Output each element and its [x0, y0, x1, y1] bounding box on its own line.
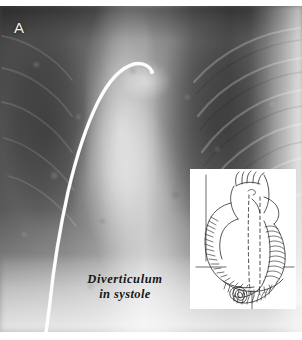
hatch-coil — [234, 285, 272, 304]
inset-diagram — [190, 169, 296, 309]
cardiac-silhouette — [74, 98, 182, 248]
aortic-knob — [118, 58, 174, 104]
left-subclavian-branch — [258, 173, 264, 184]
caption-line-2: in systole — [60, 287, 190, 302]
dilated-aorta — [264, 221, 285, 282]
chest-radiograph: A Diverticulum in systole — [0, 6, 302, 332]
cardiac-line-drawing — [190, 169, 296, 309]
apical-shadow — [0, 6, 302, 40]
panel-label: A — [14, 20, 25, 35]
figure-panel-a: A Diverticulum in systole — [0, 0, 302, 340]
hatch-right-atrium — [205, 217, 248, 288]
arch-root-detail — [248, 190, 255, 196]
right-heart-border — [205, 203, 254, 288]
figure-caption: Diverticulum in systole — [60, 272, 190, 302]
mediastinum-spine-column — [86, 6, 156, 306]
left-carotid-branch — [247, 171, 256, 183]
caption-line-1: Diverticulum — [60, 272, 190, 287]
aortic-arch — [231, 175, 269, 219]
catheter-path-dashed — [248, 195, 260, 295]
left-lung-field — [6, 32, 90, 240]
